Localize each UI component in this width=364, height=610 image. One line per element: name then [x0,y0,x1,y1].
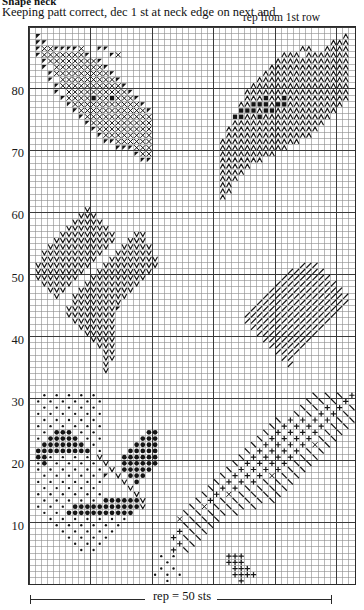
stitch-cell-slash [301,331,305,335]
stitch-cell-lambda [331,46,335,50]
stitch-cell-plus [282,461,286,465]
stitch-cell-plus [288,418,292,422]
stitch-cell-lambda [227,127,231,131]
stitch-cell-vee [128,276,132,280]
stitch-cell-vee [110,350,114,354]
stitch-cell-cross [270,474,274,478]
stitch-cell-lambda [294,133,298,137]
stitch-cell-slash [276,306,280,310]
stitch-cell-cross [73,59,77,63]
row-label-10: 10 [12,518,25,533]
stitch-cell-dot [49,413,51,415]
stitch-cell-plus [208,498,212,502]
stitch-cell-circle [153,449,158,454]
stitch-cell-vee [36,276,40,280]
stitch-cell-vee [85,251,89,255]
stitch-cell-lambda [251,145,255,149]
stitch-cell-vee [110,313,114,317]
stitch-cell-vee [67,313,71,317]
stitch-cell-vee [98,282,102,286]
stitch-cell-lambda [313,77,317,81]
stitch-cell-slash [301,344,305,348]
stitch-cell-circle [153,442,158,447]
stitch-cell-backslash [245,449,249,453]
stitch-cell-vee [36,270,40,274]
stitch-cell-triangle [104,139,108,143]
stitch-cell-vee [67,251,71,255]
stitch-cell-lambda [344,59,348,63]
stitch-cell-vee [85,214,89,218]
stitch-cell-cross [122,127,126,131]
stitch-cell-plus [239,554,243,558]
stitch-cell-triangle [147,108,151,112]
stitch-cell-circle [79,504,84,509]
stitch-cell-vee [79,232,83,236]
stitch-cell-backslash [214,517,218,521]
stitch-cell-lambda [245,139,249,143]
stitch-cell-plus [288,455,292,459]
stitch-cell-circle [85,504,90,509]
stitch-cell-lambda [313,59,317,63]
stitch-cell-vee [122,480,126,484]
stitch-cell-plus [282,436,286,440]
stitch-cell-vee [134,276,138,280]
stitch-cell-lambda [325,102,329,106]
stitch-cell-vee [73,319,77,323]
stitch-cell-circle [104,504,109,509]
stitch-cell-vee [104,362,108,366]
stitch-cell-triangle [85,53,89,57]
stitch-cell-lambda [251,139,255,143]
stitch-cell-backslash [257,436,261,440]
stitch-cell-dot [56,487,58,489]
stitch-cell-circle [116,504,121,509]
stitch-cell-plus [239,480,243,484]
stitch-cell-circle [147,442,152,447]
stitch-cell-cross [85,77,89,81]
stitch-cell-lambda [313,71,317,75]
stitch-cell-cross [79,108,83,112]
stitch-cell-lambda [245,158,249,162]
stitch-cell-lambda [270,96,274,100]
stitch-cell-dot [105,524,107,526]
stitch-cell-slash [282,282,286,286]
stitch-cell-backslash [307,399,311,403]
stitch-cell-lambda [227,133,231,137]
stitch-cell-lambda [307,121,311,125]
stitch-cell-cross [116,53,120,57]
stitch-cell-backslash [214,480,218,484]
stitch-cell-lambda [276,108,280,112]
stitch-cell-vee [147,245,151,249]
stitch-cell-triangle [61,96,65,100]
stitch-cell-dot [172,555,174,557]
stitch-cell-lambda [325,77,329,81]
stitch-cell-plus [319,412,323,416]
stitch-cell-lambda [337,65,341,69]
stitch-cell-dot [99,530,101,532]
stitch-cell-plus [337,405,341,409]
stitch-cell-lambda [257,84,261,88]
stitch-cell-backslash [190,542,194,546]
stitch-cell-plus [251,467,255,471]
stitch-cell-cross [91,59,95,63]
grid-canvas [29,27,355,584]
stitch-cell-dot [80,406,82,408]
stitch-cell-cross [116,84,120,88]
stitch-cell-triangle [141,102,145,106]
stitch-cell-vee [48,282,52,286]
stitch-cell-cross [128,133,132,137]
stitch-cell-plus [331,412,335,416]
stitch-cell-circle [134,467,139,472]
stitch-cell-slash [294,300,298,304]
stitch-cell-lambda [227,152,231,156]
stitch-cell-vee [104,356,108,360]
stitch-cell-lambda [325,84,329,88]
stitch-cell-dot [154,574,156,576]
stitch-cell-circle [147,455,152,460]
stitch-cell-cross [67,65,71,69]
stitch-cell-cross [73,71,77,75]
stitch-cell-vee [61,251,65,255]
stitch-cell-vee [134,251,138,255]
stitch-cell-vee [79,294,83,298]
stitch-cell-slash [294,319,298,323]
stitch-cell-triangle [73,46,77,50]
